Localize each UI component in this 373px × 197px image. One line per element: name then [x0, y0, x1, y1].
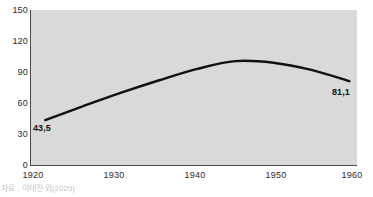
x-axis-tick-1940: 1940: [175, 170, 215, 180]
y-axis-tick-150: 150: [2, 6, 28, 15]
line-chart-figure: 150 120 90 60 30 0 1920 1930 1940 1950 1…: [0, 0, 373, 197]
x-axis-tick-1930: 1930: [94, 170, 134, 180]
x-axis-tick-1950: 1950: [256, 170, 296, 180]
y-axis-tick-labels: 150 120 90 60 30 0: [0, 0, 28, 197]
x-axis-tick-1960: 1960: [332, 170, 372, 180]
y-axis-tick-60: 60: [2, 99, 28, 108]
y-axis-tick-0: 0: [2, 161, 28, 170]
start-value-label: 43,5: [33, 124, 51, 133]
x-axis-tick-1920: 1920: [13, 170, 53, 180]
plot-area: [30, 10, 357, 165]
y-axis-line: [30, 10, 31, 165]
y-axis-tick-30: 30: [2, 130, 28, 139]
source-caption: 자료 : 이태진 외(2020): [1, 184, 141, 194]
x-axis-line: [30, 165, 357, 166]
data-series-line: [45, 61, 349, 120]
y-axis-tick-90: 90: [2, 68, 28, 77]
data-line-svg: [30, 10, 357, 165]
y-axis-tick-120: 120: [2, 37, 28, 46]
end-value-label: 81,1: [332, 88, 350, 97]
